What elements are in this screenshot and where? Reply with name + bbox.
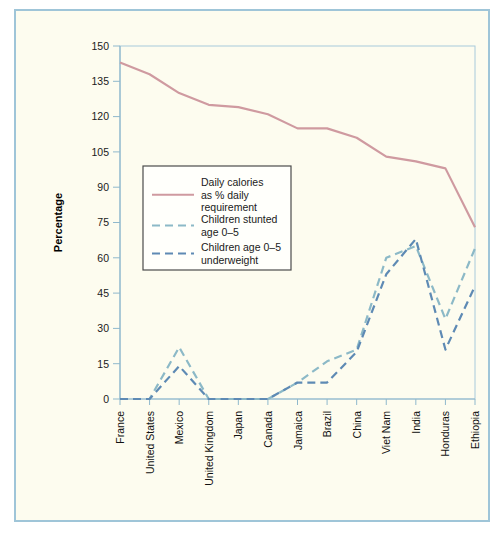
x-tick-label: India xyxy=(410,411,422,434)
y-tick-label: 15 xyxy=(97,358,109,370)
y-tick-label: 135 xyxy=(91,75,109,87)
x-tick-label: United Kingdom xyxy=(203,411,215,486)
x-tick-label: Mexico xyxy=(173,411,185,444)
y-axis-title: Percentage xyxy=(52,193,64,252)
x-tick-label: United States xyxy=(144,411,156,474)
x-tick-label: Honduras xyxy=(439,411,451,457)
legend-label-0: Daily calories xyxy=(201,176,263,188)
x-tick-label: France xyxy=(114,411,126,444)
legend-label-2: Children age 0–5 xyxy=(201,241,281,253)
legend-label-2: underweight xyxy=(201,254,258,266)
x-tick-label: Jamaica xyxy=(292,411,304,450)
x-tick-label: China xyxy=(351,411,363,439)
y-tick-label: 90 xyxy=(97,181,109,193)
y-tick-label: 75 xyxy=(97,216,109,228)
y-tick-label: 45 xyxy=(97,287,109,299)
legend-label-1: age 0–5 xyxy=(201,226,239,238)
legend-label-0: requirement xyxy=(201,201,257,213)
x-tick-label: Japan xyxy=(232,411,244,440)
figure-frame: 0153045607590105120135150FranceUnited St… xyxy=(14,9,490,522)
x-tick-label: Viet Nam xyxy=(380,411,392,454)
y-tick-label: 60 xyxy=(97,252,109,264)
x-tick-label: Brazil xyxy=(321,411,333,437)
line-chart: 0153045607590105120135150FranceUnited St… xyxy=(16,11,488,520)
y-tick-label: 0 xyxy=(103,393,109,405)
y-tick-label: 105 xyxy=(91,146,109,158)
y-tick-label: 30 xyxy=(97,322,109,334)
legend-label-1: Children stunted xyxy=(201,213,278,225)
x-tick-label: Ethiopia xyxy=(469,411,481,449)
legend-label-0: as % daily xyxy=(201,189,250,201)
y-tick-label: 150 xyxy=(91,40,109,52)
x-tick-label: Canada xyxy=(262,411,274,448)
y-tick-label: 120 xyxy=(91,110,109,122)
